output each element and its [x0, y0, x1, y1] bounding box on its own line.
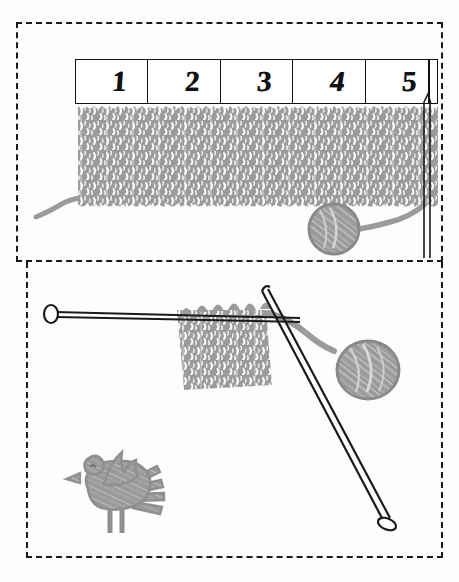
measuring-ruler: 1 2 3 4 5 — [75, 59, 438, 104]
ruler-mark: 2 — [184, 67, 201, 96]
ruler-cell-2: 2 — [148, 60, 220, 103]
ruler-mark: 5 — [401, 67, 418, 96]
ruler-cell-5: 5 — [366, 60, 437, 103]
illustration-page: 1 2 3 4 5 — [0, 0, 459, 582]
top-panel — [16, 22, 443, 262]
ruler-mark: 4 — [327, 67, 346, 96]
ruler-mark: 1 — [111, 67, 128, 96]
ruler-end-tick — [428, 59, 430, 104]
ruler-cell-4: 4 — [293, 60, 365, 103]
ruler-cell-1: 1 — [76, 60, 148, 103]
ruler-mark: 3 — [256, 67, 273, 96]
bottom-panel — [26, 262, 443, 558]
ruler-cell-3: 3 — [221, 60, 293, 103]
